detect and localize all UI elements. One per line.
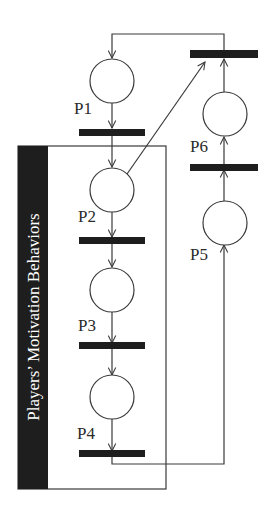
- transition-t4: [79, 450, 145, 457]
- petri-net-diagram: Players’ Motivation Behaviors P1 P2 P3 P…: [0, 0, 269, 509]
- group-label: Players’ Motivation Behaviors: [24, 213, 43, 420]
- place-p6: [203, 92, 247, 136]
- place-label-p4: P4: [77, 424, 95, 443]
- place-p3: [90, 268, 134, 312]
- place-label-p2: P2: [78, 207, 96, 226]
- transition-t1: [79, 129, 145, 136]
- place-p5: [203, 201, 247, 245]
- transition-t6: [190, 50, 258, 58]
- transition-t3: [79, 342, 145, 349]
- place-label-p5: P5: [190, 245, 208, 264]
- place-label-p3: P3: [78, 316, 96, 335]
- place-p2: [90, 168, 134, 212]
- place-p1: [90, 59, 134, 103]
- place-p4: [90, 375, 134, 419]
- transition-t2: [79, 237, 145, 244]
- place-label-p6: P6: [190, 137, 208, 156]
- place-label-p1: P1: [74, 99, 92, 118]
- transition-t5: [190, 164, 258, 171]
